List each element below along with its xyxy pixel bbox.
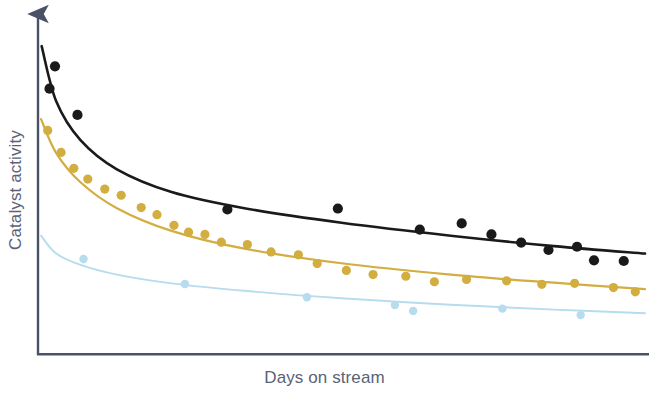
y-axis-label: Catalyst activity	[6, 90, 26, 290]
data-point	[401, 272, 410, 281]
data-point	[572, 242, 582, 252]
data-point	[100, 184, 109, 193]
data-point	[498, 304, 506, 312]
fitted-curve-series-1	[41, 119, 645, 289]
data-point	[152, 210, 161, 219]
chart-figure: Catalyst activity Days on stream	[0, 0, 649, 393]
data-point	[576, 311, 584, 319]
data-point	[409, 307, 417, 315]
data-point	[69, 164, 78, 173]
data-point	[43, 126, 52, 135]
data-point	[368, 270, 377, 279]
data-point	[83, 174, 92, 183]
data-point	[184, 228, 193, 237]
data-point	[543, 245, 553, 255]
data-point	[294, 250, 303, 259]
data-point	[50, 61, 60, 71]
data-point	[631, 287, 640, 296]
data-point	[457, 218, 467, 228]
data-point	[537, 280, 546, 289]
series-0-points	[44, 61, 628, 266]
axis-lines	[37, 14, 649, 355]
data-point	[516, 237, 526, 247]
data-point	[137, 203, 146, 212]
data-point	[243, 240, 252, 249]
data-point	[502, 276, 511, 285]
data-point	[430, 277, 439, 286]
data-point	[44, 84, 54, 94]
data-point	[217, 238, 226, 247]
series-2-points	[79, 255, 585, 319]
data-point	[570, 279, 579, 288]
data-point	[266, 247, 275, 256]
data-point	[222, 204, 232, 214]
data-point	[415, 224, 425, 234]
scatter-points-group	[43, 61, 640, 319]
data-point	[333, 203, 343, 213]
data-point	[486, 229, 496, 239]
data-point	[169, 221, 178, 230]
data-point	[589, 255, 599, 265]
data-point	[342, 266, 351, 275]
data-point	[619, 256, 629, 266]
fitted-curve-series-0	[42, 46, 645, 253]
data-point	[609, 283, 618, 292]
data-point	[391, 301, 399, 309]
data-point	[72, 110, 82, 120]
x-axis-label: Days on stream	[0, 368, 649, 388]
data-point	[313, 259, 322, 268]
data-point	[117, 191, 126, 200]
data-point	[462, 275, 471, 284]
data-point	[56, 148, 65, 157]
data-point	[200, 230, 209, 239]
chart-plot-area	[0, 0, 649, 393]
data-point	[303, 293, 311, 301]
data-point	[181, 280, 189, 288]
data-point	[79, 255, 87, 263]
